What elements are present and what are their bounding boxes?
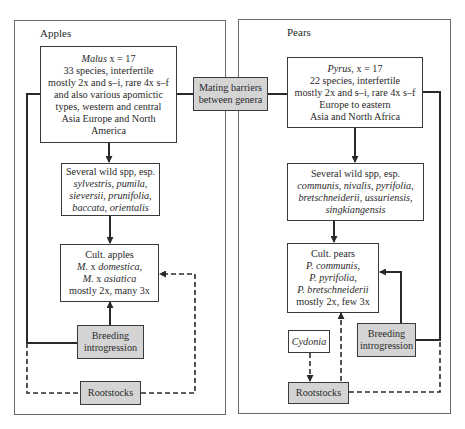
apples-breeding-box: Breeding introgression <box>77 325 144 359</box>
pyrus-genus-box: Pyrus, x = 17 22 species, interfertile m… <box>287 57 423 128</box>
pears-rootstocks-box: Rootstocks <box>288 382 349 404</box>
apples-title: Apples <box>40 27 71 39</box>
pears-wild-species-box: Several wild spp, esp. communis, nivalis… <box>287 163 424 221</box>
malus-species-count: 33 species, interfertile <box>63 65 153 77</box>
cultivated-pears-box: Cult. pears P. communis, P. pyrifolia, P… <box>287 243 379 313</box>
malus-genus-name: Malus <box>81 53 106 64</box>
pyrus-species-count: 22 species, interfertile <box>310 75 400 87</box>
apples-rootstocks-box: Rootstocks <box>80 381 141 405</box>
pears-title: Pears <box>287 26 311 38</box>
malus-ploidy: mostly 2x and s–i, rare 4x s–f <box>48 77 169 89</box>
pears-breeding-box: Breeding introgression <box>357 323 416 357</box>
pyrus-genus-name: Pyrus <box>328 63 352 74</box>
mating-barriers-box: Mating barriers between genera <box>193 77 268 111</box>
malus-genus-box: Malus x = 17 33 species, interfertile mo… <box>40 46 177 143</box>
apples-wild-species-box: Several wild spp, esp. sylvestris, pumil… <box>61 163 160 216</box>
cydonia-box: Cydonia <box>288 330 330 353</box>
cultivated-apples-box: Cult. apples M. x domestica, M. x asiati… <box>60 244 159 302</box>
pyrus-ploidy: mostly 2x and s–i, rare 4x s–f <box>295 87 416 99</box>
